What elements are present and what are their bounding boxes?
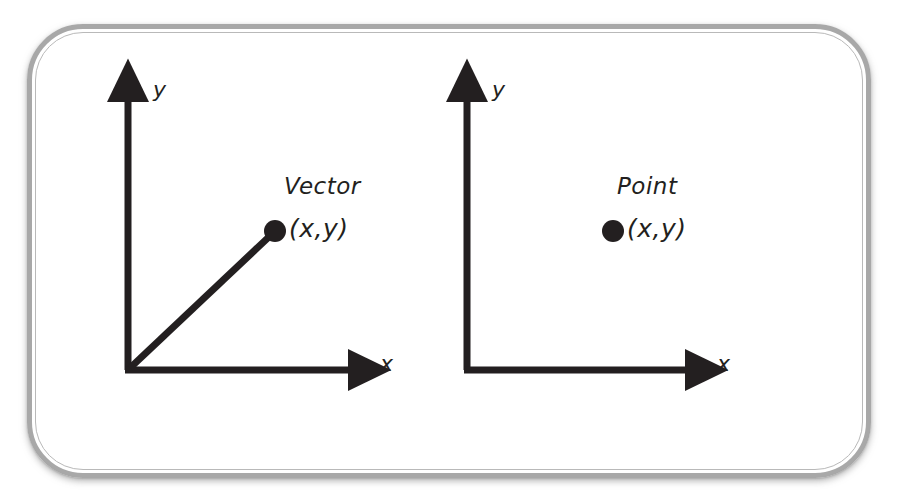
vector-panel-y-axis-label: y: [153, 79, 167, 101]
point-label: Point: [617, 175, 677, 198]
vector-arrow-shaft: [130, 234, 272, 368]
point-panel-y-axis-label: y: [492, 79, 506, 101]
vector-label: Vector: [284, 175, 361, 198]
figure-canvas: y x Vector (x,y) y x Point (x,y): [0, 0, 899, 503]
point-coordinate-label: (x,y): [627, 216, 687, 241]
vector-panel-x-axis-label: x: [380, 353, 394, 375]
point-panel-x-axis-label: x: [717, 353, 731, 375]
diagram-svg: [0, 0, 899, 503]
vector-coordinate-label: (x,y): [289, 216, 349, 241]
point-dot: [602, 220, 624, 242]
vector-endpoint-dot: [264, 220, 286, 242]
